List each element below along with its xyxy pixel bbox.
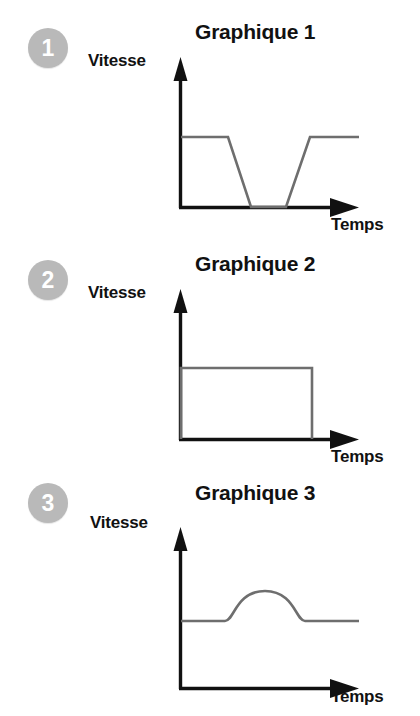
graph-block-3: 3 Graphique 3 Vitesse Temps <box>0 463 420 716</box>
graph-title-2: Graphique 2 <box>195 252 315 276</box>
graph-block-1: 1 Graphique 1 Vitesse Temps <box>0 0 420 240</box>
y-axis-arrowhead-1 <box>174 57 188 81</box>
y-axis-label-2: Vitesse <box>88 283 146 303</box>
step-badge-1: 1 <box>28 28 68 68</box>
step-badge-3: 3 <box>28 483 68 523</box>
graph-title-3: Graphique 3 <box>195 481 315 505</box>
x-axis-arrowhead-2 <box>330 430 359 449</box>
y-axis-label-3: Vitesse <box>90 513 148 533</box>
plot-area-3 <box>160 525 370 705</box>
plot-area-2 <box>160 287 370 457</box>
worksheet-page: 1 Graphique 1 Vitesse Temps 2 Graphique … <box>0 0 420 716</box>
x-axis-arrowhead-3 <box>330 679 359 698</box>
step-badge-2: 2 <box>28 260 68 300</box>
y-axis-arrowhead-2 <box>174 289 188 313</box>
speed-curve-3 <box>181 591 359 621</box>
graph-block-2: 2 Graphique 2 Vitesse Temps <box>0 232 420 472</box>
x-axis-arrowhead-1 <box>330 198 359 217</box>
y-axis-arrowhead-3 <box>174 527 188 551</box>
y-axis-label-1: Vitesse <box>88 51 146 71</box>
speed-curve-2 <box>181 368 312 439</box>
speed-curve-1 <box>181 137 359 207</box>
graph-title-1: Graphique 1 <box>195 20 315 44</box>
plot-area-1 <box>160 55 370 225</box>
